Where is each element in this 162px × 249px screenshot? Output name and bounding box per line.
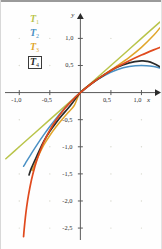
legend-sub-t4: 4 bbox=[36, 62, 39, 68]
grid-dot bbox=[49, 38, 50, 39]
grid-dot bbox=[19, 38, 20, 39]
grid-dot bbox=[141, 200, 142, 201]
grid-dot bbox=[19, 200, 20, 201]
grid-dot bbox=[19, 173, 20, 174]
grid-dot bbox=[19, 227, 20, 228]
grid-dot bbox=[49, 173, 50, 174]
y-axis-arrow bbox=[77, 13, 84, 19]
grid-dot bbox=[110, 200, 111, 201]
legend-item-t4[interactable]: T4 bbox=[28, 56, 42, 69]
y-tick-label: -1,5 bbox=[62, 170, 72, 177]
grid-dot bbox=[141, 146, 142, 147]
grid-dot bbox=[110, 173, 111, 174]
y-tick-label: -0,5 bbox=[62, 116, 72, 123]
y-tick-label: 0,5 bbox=[65, 61, 73, 68]
curve-t4 bbox=[29, 61, 161, 175]
legend-item-t3[interactable]: T3 bbox=[30, 42, 39, 52]
grid-dot bbox=[110, 227, 111, 228]
legend-sub-t3: 3 bbox=[36, 47, 39, 53]
grid-dot bbox=[141, 173, 142, 174]
legend-sub-t1: 1 bbox=[36, 19, 39, 25]
grid-dot bbox=[19, 119, 20, 120]
grid-dot bbox=[110, 146, 111, 147]
y-tick-label: -2,0 bbox=[62, 197, 72, 204]
x-tick-label: 1,0 bbox=[133, 96, 141, 103]
figure-panel: T1 T2 T3 T4 y x -1,0-0,50,51,01,00,5-0,5… bbox=[0, 0, 162, 249]
grid-dot bbox=[110, 119, 111, 120]
x-tick-label: -0,5 bbox=[42, 96, 52, 103]
grid-dot bbox=[19, 65, 20, 66]
y-tick-label: 1,0 bbox=[65, 34, 73, 41]
grid-dot bbox=[49, 227, 50, 228]
x-axis-arrow bbox=[155, 89, 161, 96]
x-tick-label: -1,0 bbox=[11, 96, 21, 103]
series-group bbox=[6, 22, 161, 237]
legend-item-t2[interactable]: T2 bbox=[30, 28, 39, 38]
y-tick-label: -1,0 bbox=[62, 143, 72, 150]
grid-dot bbox=[141, 119, 142, 120]
x-tick-label: 0,5 bbox=[103, 96, 111, 103]
grid-dot bbox=[49, 146, 50, 147]
y-tick-label: -2,5 bbox=[62, 224, 72, 231]
legend-sub-t2: 2 bbox=[36, 33, 39, 39]
legend-item-t1[interactable]: T1 bbox=[30, 14, 39, 24]
curve-t2 bbox=[24, 65, 160, 166]
grid-dot bbox=[49, 65, 50, 66]
grid-dot bbox=[141, 227, 142, 228]
grid-dot bbox=[110, 38, 111, 39]
y-axis-label: y bbox=[71, 11, 74, 19]
curve-exact bbox=[24, 47, 160, 236]
plot-canvas bbox=[0, 0, 162, 249]
x-axis-label: x bbox=[147, 96, 150, 104]
grid-dot bbox=[49, 200, 50, 201]
